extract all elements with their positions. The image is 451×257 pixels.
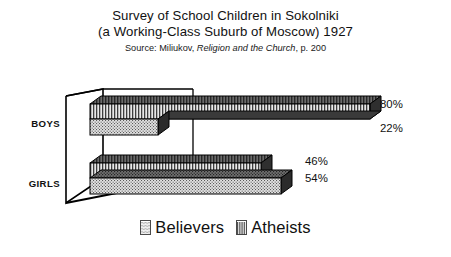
legend-swatch-atheists-icon [236,220,247,235]
value-label-girls-believers: 54% [305,172,328,184]
value-label-boys-believers: 22% [380,122,403,134]
legend-item-atheists: Atheists [236,218,311,237]
chart-legend: Believers Atheists [0,218,451,237]
value-label-boys-atheists: 80% [380,98,403,110]
bar-girls-believers [90,170,292,194]
chart-figure: Survey of School Children in Sokolniki (… [0,0,451,257]
legend-label-atheists: Atheists [251,218,311,237]
category-label-girls: GIRLS [6,178,60,189]
category-label-boys: BOYS [6,118,60,129]
legend-item-believers: Believers [140,218,224,237]
value-label-girls-atheists: 46% [305,155,328,167]
legend-swatch-believers-icon [140,220,151,235]
legend-label-believers: Believers [155,218,224,237]
